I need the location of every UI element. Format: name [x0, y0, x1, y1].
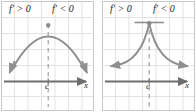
label-derivative-negative: f′ < 0: [52, 4, 74, 14]
label-x-axis: x: [84, 81, 88, 90]
two-panel-derivative-figure: f′ > 0 f′ < 0 c x: [0, 0, 196, 112]
panel-smooth-maximum: f′ > 0 f′ < 0 c x: [0, 0, 95, 112]
label-x-axis: x: [185, 81, 189, 90]
critical-point-dot: [46, 23, 50, 27]
label-critical-point-c: c: [45, 82, 49, 91]
panel-cusp-maximum-plot: [101, 0, 196, 112]
panel-cusp-maximum: f′ > 0 f′ < 0 c x: [101, 0, 196, 112]
curve-arrow-left: [111, 65, 118, 66]
panel-smooth-maximum-plot: [0, 0, 95, 112]
curve-arrow-right: [181, 65, 188, 66]
label-critical-point-c: c: [146, 82, 150, 91]
label-derivative-positive: f′ > 0: [110, 4, 132, 14]
critical-point-dot: [147, 21, 151, 25]
label-derivative-positive: f′ > 0: [9, 4, 31, 14]
label-derivative-negative: f′ < 0: [153, 4, 175, 14]
